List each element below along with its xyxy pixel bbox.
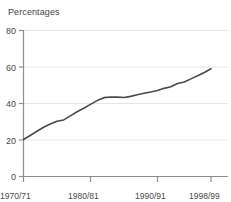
x-axis — [23, 177, 228, 183]
ytick-label-40: 40 — [6, 99, 16, 109]
xtick-label-1990-91: 1990/91 — [135, 191, 166, 201]
xtick-label-1980-81: 1980/81 — [68, 191, 99, 201]
y-axis-tick-labels: 80 60 40 20 0 — [6, 26, 16, 182]
xtick-label-1998-99: 1998/99 — [189, 191, 220, 201]
chart-plot-area: 80 60 40 20 0 1970/71 1980/81 1990/91 19… — [0, 0, 231, 202]
gridlines — [23, 31, 228, 141]
y-axis — [19, 30, 24, 177]
x-axis-tick-labels: 1970/71 1980/81 1990/91 1998/99 — [0, 191, 220, 201]
ytick-label-20: 20 — [6, 136, 16, 146]
xtick-label-1970-71: 1970/71 — [0, 191, 31, 201]
ytick-label-60: 60 — [6, 63, 16, 73]
data-series-line — [24, 69, 212, 140]
ytick-label-0: 0 — [11, 172, 16, 182]
line-chart: Percentages 80 60 40 20 — [0, 0, 231, 202]
ytick-label-80: 80 — [6, 26, 16, 36]
